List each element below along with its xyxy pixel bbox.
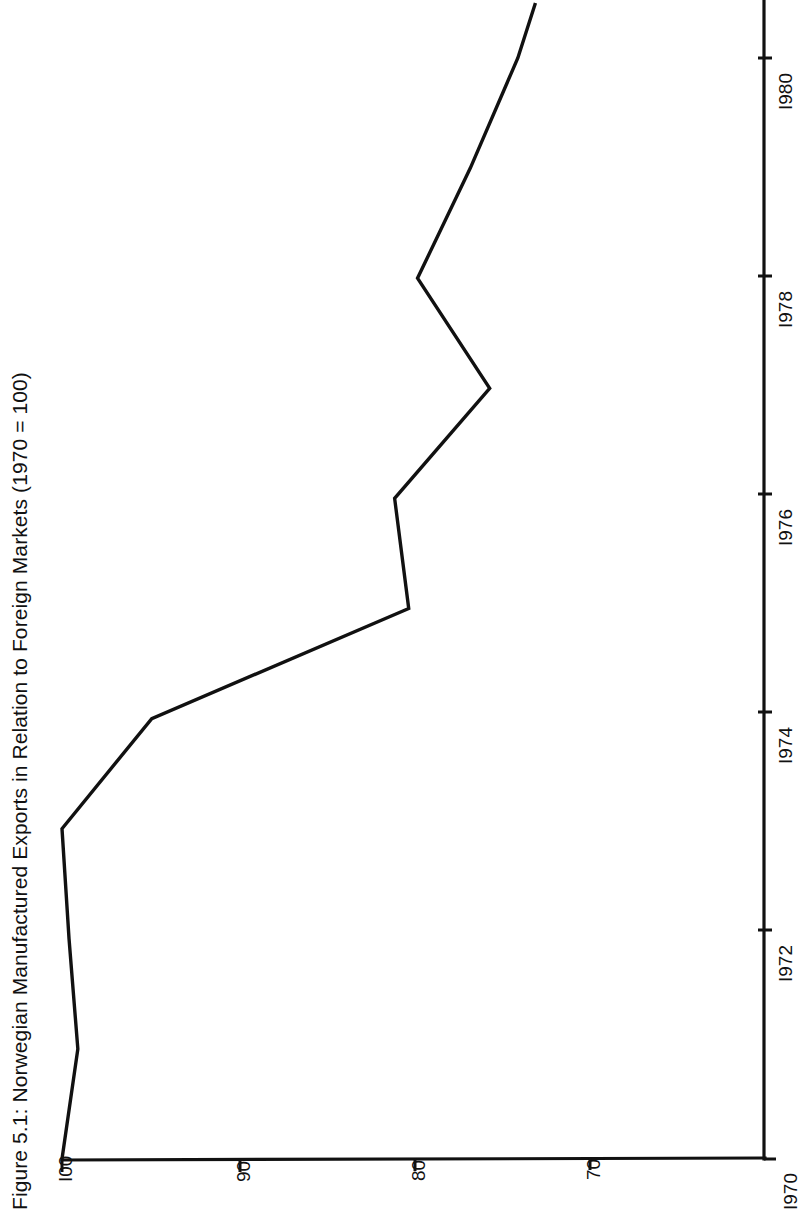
figure-container: Figure 5.1: Norwegian Manufactured Expor… (0, 0, 800, 1216)
index-tick-label-100: I00 (56, 1112, 76, 1182)
year-tick-label-1974: I974 (775, 684, 797, 764)
year-tick-label-1970: I970 (780, 1130, 800, 1210)
index-tick-label-70: 70 (584, 1110, 604, 1180)
index-tick-label-80: 80 (409, 1111, 429, 1181)
year-tick-label-1980: I980 (775, 30, 797, 110)
year-tick-label-1976: I976 (775, 466, 797, 546)
index-tick-label-90: 90 (234, 1112, 254, 1182)
year-tick-label-1978: I978 (775, 248, 797, 328)
year-axis-ticks (758, 58, 776, 1159)
data-series-line (62, 3, 535, 1159)
chart-plot (0, 0, 800, 1216)
year-tick-label-1972: I972 (775, 902, 797, 982)
